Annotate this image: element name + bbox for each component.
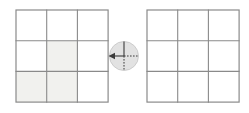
right-grid-cell-r2c0	[147, 71, 178, 102]
left-grid-cell-r1c0	[16, 41, 47, 72]
right-grid	[147, 10, 239, 102]
right-grid-cell-r0c0	[147, 10, 178, 41]
diagram-root	[0, 0, 249, 113]
left-grid	[16, 10, 108, 102]
right-grid-cell-r2c2	[208, 71, 239, 102]
left-grid-cell-r0c2	[77, 10, 108, 41]
left-grid-cell-r1c2	[77, 41, 108, 72]
left-grid-cell-r0c1	[47, 10, 78, 41]
left-grid-cell-r2c2	[77, 71, 108, 102]
right-grid-cell-r0c1	[178, 10, 209, 41]
left-grid-cell-r1c1	[47, 41, 78, 72]
right-grid-cell-r1c1	[178, 41, 209, 72]
left-grid-cell-r2c1	[47, 71, 78, 102]
right-grid-cell-r2c1	[178, 71, 209, 102]
rotation-dial-icon	[109, 42, 139, 71]
left-grid-cell-r2c0	[16, 71, 47, 102]
left-grid-cell-r0c0	[16, 10, 47, 41]
grid-rotation-diagram	[0, 0, 249, 113]
right-grid-cell-r1c0	[147, 41, 178, 72]
right-grid-cell-r1c2	[208, 41, 239, 72]
right-grid-cell-r0c2	[208, 10, 239, 41]
